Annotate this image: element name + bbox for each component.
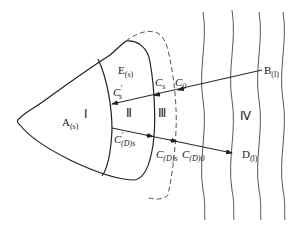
label-B-liquid: B(l) xyxy=(264,64,279,79)
core-boundary xyxy=(98,59,112,176)
label-Cs: Cs xyxy=(155,76,165,91)
liquid-line-4 xyxy=(282,12,285,220)
region-label-III: Ⅲ xyxy=(158,106,166,120)
liquid-line-1 xyxy=(202,12,205,220)
label-A-solid: A(s) xyxy=(62,116,79,131)
label-CD0: C(D)0 xyxy=(182,148,204,163)
label-E-solid: E(s) xyxy=(118,64,134,79)
diffusion-arrow-in xyxy=(112,70,262,104)
liquid-line-2 xyxy=(231,10,234,220)
diagram-canvas: Ⅰ Ⅱ Ⅲ Ⅳ A(s) E(s) B(l) D(l) C0 Cs C′s C′… xyxy=(0,0,295,228)
diagram: Ⅰ Ⅱ Ⅲ Ⅳ A(s) E(s) B(l) D(l) C0 Cs C′s C′… xyxy=(0,0,295,228)
label-Cs-prime: C′s xyxy=(113,84,122,101)
film-boundary xyxy=(126,31,176,199)
region-label-IV: Ⅳ xyxy=(240,109,251,123)
label-D-liquid: D(l) xyxy=(242,148,258,163)
region-label-I: Ⅰ xyxy=(84,107,88,121)
label-CDs-prime: C′(D)s xyxy=(114,131,135,148)
region-label-II: Ⅱ xyxy=(126,106,132,120)
liquid-line-3 xyxy=(258,12,261,220)
